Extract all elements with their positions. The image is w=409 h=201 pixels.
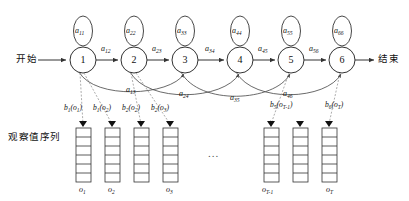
observation-column-1 <box>76 128 91 182</box>
ellipsis-label: ... <box>208 148 219 159</box>
diagram-vector-layer <box>0 0 409 201</box>
self-loop-arcs <box>74 16 352 46</box>
skip-transition-label-46: a46 <box>283 90 293 98</box>
start-label: 开始 <box>16 54 37 64</box>
observation-label-o2: o2 <box>108 186 115 194</box>
observation-column-5 <box>264 128 279 182</box>
forward-transition-label-56: a56 <box>309 45 319 53</box>
skip-transition-label-13: a13 <box>126 86 136 94</box>
emission-arrows <box>80 73 340 124</box>
emission-label-b5-oT1: b5(oT-1) <box>270 101 292 109</box>
self-transition-label-66: a66 <box>334 27 344 35</box>
state-label-5: 5 <box>287 55 295 65</box>
observation-column-7 <box>322 128 337 182</box>
self-transition-label-44: a44 <box>232 27 242 35</box>
self-transition-label-11: a11 <box>75 27 84 35</box>
emission-arrow-2-o3 <box>136 73 170 124</box>
emission-arrow-6-oT <box>329 73 340 124</box>
state-label-4: 4 <box>236 55 244 65</box>
observation-column-6 <box>293 128 308 182</box>
self-transition-label-33: a33 <box>177 27 187 35</box>
forward-transition-label-12: a12 <box>101 45 111 53</box>
forward-transition-label-45: a45 <box>258 45 268 53</box>
state-label-1: 1 <box>79 55 87 65</box>
emission-label-b2-o2: b2(o2) <box>122 104 140 112</box>
observation-column-3 <box>134 128 149 182</box>
forward-transition-label-23: a23 <box>152 45 162 53</box>
observation-label-o1: o1 <box>79 186 86 194</box>
emission-label-b6-oT: b6(oT) <box>325 101 343 109</box>
skip-transition-arcs <box>79 72 341 96</box>
emission-arrow-1-o2 <box>84 73 112 124</box>
observation-label-oT-1: oT-1 <box>262 186 273 194</box>
end-label: 结束 <box>378 54 399 64</box>
self-transition-label-55: a55 <box>283 27 293 35</box>
state-label-6: 6 <box>338 55 346 65</box>
emission-label-b1-o2: b1(o2) <box>93 104 111 112</box>
observation-label-o3: o3 <box>166 186 173 194</box>
state-label-3: 3 <box>181 55 189 65</box>
emission-label-b1-o1: b1(o1) <box>64 104 82 112</box>
skip-transition-3-5 <box>181 72 290 96</box>
observation-columns-group <box>76 128 337 182</box>
observation-column-4 <box>163 128 178 182</box>
observation-row-label: 观察值序列 <box>8 132 61 142</box>
observation-label-oT: oT <box>326 186 333 194</box>
emission-label-b2-o3: b2(o3) <box>151 104 169 112</box>
emission-arrow-2-o2 <box>131 73 141 124</box>
state-label-2: 2 <box>130 55 138 65</box>
observation-column-arrowheads <box>79 121 333 127</box>
hmm-diagram-canvas: 开始 结束 观察值序列 1 2 3 4 5 6 a11 a22 a33 a44 … <box>0 0 409 201</box>
skip-transition-label-24: a24 <box>179 90 189 98</box>
skip-transition-label-35: a35 <box>230 94 240 102</box>
forward-transition-label-34: a34 <box>205 45 215 53</box>
emission-arrow-1-o1 <box>80 73 83 124</box>
self-transition-label-22: a22 <box>126 27 136 35</box>
observation-column-2 <box>105 128 120 182</box>
